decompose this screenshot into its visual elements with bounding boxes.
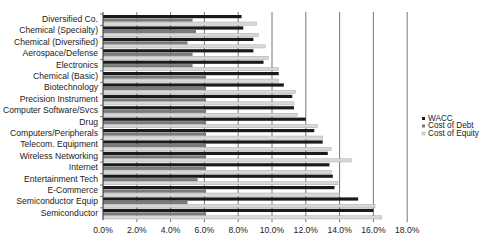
bar-cost-of-equity	[103, 147, 331, 150]
wacc-bar-chart: Diversified Co.Chemical (Specialty)Chemi…	[0, 0, 490, 244]
category-label: Electronics	[56, 60, 98, 70]
bar-cost-of-equity	[103, 136, 323, 139]
bar-cost-of-equity	[103, 113, 297, 116]
bar-wacc	[103, 49, 253, 52]
axes	[100, 12, 103, 220]
bar-cost-of-equity	[103, 90, 296, 93]
bar-cost-of-debt	[103, 87, 206, 90]
bar-cost-of-debt	[103, 133, 206, 136]
category-label: Wireless Networking	[20, 151, 99, 161]
bar-cost-of-debt	[103, 30, 196, 33]
bar-wacc	[103, 175, 333, 178]
bar-cost-of-debt	[103, 167, 206, 170]
bar-cost-of-debt	[103, 19, 193, 22]
category-label: Drug	[79, 117, 98, 127]
bar-cost-of-debt	[103, 178, 198, 181]
bar-wacc	[103, 72, 279, 75]
x-tick-label: 16.0%	[361, 225, 386, 235]
bar-cost-of-debt	[103, 201, 188, 204]
bar-cost-of-equity	[103, 193, 340, 196]
bar-cost-of-equity	[103, 170, 331, 173]
bar-cost-of-equity	[103, 79, 279, 82]
bar-cost-of-equity	[103, 216, 382, 219]
category-label: Precision Instrument	[20, 94, 99, 104]
bar-cost-of-debt	[103, 53, 193, 56]
category-label: Telecom. Equipment	[20, 139, 98, 149]
bar-cost-of-debt	[103, 98, 206, 101]
bar-cost-of-debt	[103, 41, 188, 44]
bar-cost-of-debt	[103, 76, 206, 79]
bar-wacc	[103, 106, 294, 109]
bar-series	[103, 15, 382, 219]
x-tick-label: 0.0%	[93, 225, 113, 235]
bar-cost-of-equity	[103, 56, 269, 59]
bar-wacc	[103, 38, 253, 41]
category-label: Chemical (Basic)	[33, 71, 98, 81]
bar-cost-of-equity	[103, 182, 338, 185]
bar-cost-of-debt	[103, 64, 193, 67]
bar-cost-of-debt	[103, 121, 206, 124]
category-label: Aerospace/Defense	[23, 48, 99, 58]
x-tick-label: 4.0%	[161, 225, 181, 235]
bar-wacc	[103, 118, 306, 121]
bar-cost-of-equity	[103, 33, 258, 36]
legend-label: Cost of Equity	[428, 129, 480, 138]
bar-cost-of-equity	[103, 102, 294, 105]
category-label: Semiconductor	[41, 208, 98, 218]
legend-swatch-wacc	[422, 117, 425, 120]
x-tick-labels: 0.0%2.0%4.0%6.0%8.0%10.0%12.0%14.0%16.0%…	[93, 225, 420, 235]
x-tick-label: 2.0%	[127, 225, 147, 235]
legend-swatch-cost-of-debt	[422, 125, 425, 128]
category-label: Biotechnology	[44, 82, 99, 92]
bar-wacc	[103, 95, 292, 98]
category-label: E-Commerce	[47, 185, 98, 195]
bar-cost-of-equity	[103, 68, 279, 71]
bar-wacc	[103, 163, 329, 166]
bar-wacc	[103, 61, 264, 64]
category-label: Computers/Peripherals	[10, 128, 98, 138]
bar-cost-of-equity	[103, 159, 351, 162]
x-tick-label: 6.0%	[195, 225, 215, 235]
legend-swatch-cost-of-equity	[422, 132, 425, 135]
bar-wacc	[103, 186, 335, 189]
bar-cost-of-equity	[103, 204, 375, 207]
bar-wacc	[103, 15, 242, 18]
category-label: Internet	[69, 162, 99, 172]
x-tick-label: 18.0%	[395, 225, 420, 235]
category-label: Entertainment Tech	[24, 174, 98, 184]
legend: WACCCost of DebtCost of Equity	[422, 114, 480, 138]
bar-cost-of-debt	[103, 144, 206, 147]
bar-cost-of-equity	[103, 22, 257, 25]
bar-cost-of-equity	[103, 125, 318, 128]
x-tick-label: 12.0%	[294, 225, 319, 235]
category-label: Diversified Co.	[42, 14, 98, 24]
bar-wacc	[103, 209, 373, 212]
bar-cost-of-debt	[103, 155, 206, 158]
category-label: Computer Software/Svcs	[3, 105, 98, 115]
bar-cost-of-equity	[103, 45, 265, 48]
bar-cost-of-debt	[103, 110, 206, 113]
bar-wacc	[103, 83, 284, 86]
bar-cost-of-debt	[103, 212, 206, 215]
x-tick-label: 8.0%	[228, 225, 248, 235]
bar-cost-of-debt	[103, 190, 206, 193]
bar-wacc	[103, 140, 323, 143]
category-label: Chemical (Diversified)	[14, 37, 98, 47]
category-label: Semiconductor Equip	[16, 196, 98, 206]
bar-wacc	[103, 26, 243, 29]
bar-wacc	[103, 152, 328, 155]
x-tick-label: 10.0%	[260, 225, 285, 235]
x-tick-label: 14.0%	[327, 225, 352, 235]
category-labels: Diversified Co.Chemical (Specialty)Chemi…	[3, 14, 99, 218]
bar-wacc	[103, 197, 358, 200]
bar-wacc	[103, 129, 314, 132]
category-label: Chemical (Specialty)	[19, 25, 98, 35]
